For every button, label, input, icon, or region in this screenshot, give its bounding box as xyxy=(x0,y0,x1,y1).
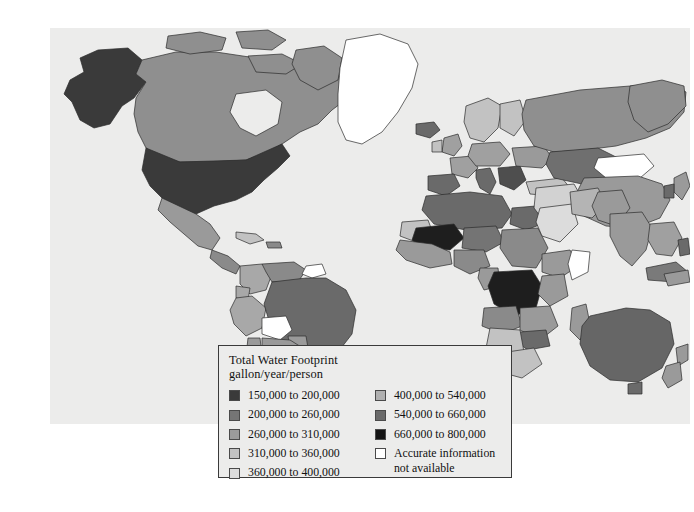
country-australia xyxy=(580,308,674,382)
legend-item: 200,000 to 260,000 xyxy=(229,407,375,426)
country-spain-portugal xyxy=(428,174,460,196)
legend-swatch xyxy=(229,410,240,421)
country-ireland xyxy=(432,140,442,152)
country-norway-sweden xyxy=(464,98,502,142)
country-india xyxy=(610,212,652,266)
country-japan xyxy=(674,172,690,200)
legend-title-line2: gallon/year/person xyxy=(229,367,511,381)
country-germany-poland xyxy=(468,142,510,166)
legend-item-label: 660,000 to 800,000 xyxy=(394,427,486,442)
legend-swatch xyxy=(375,410,386,421)
country-kenya-tanzania xyxy=(538,274,568,306)
legend-item-label: 310,000 to 360,000 xyxy=(248,446,340,461)
country-canada-arctic-1 xyxy=(166,32,226,54)
country-philippines xyxy=(678,238,690,256)
legend-swatch xyxy=(229,448,240,459)
legend-item-label: 150,000 to 200,000 xyxy=(248,388,340,403)
legend-item-label: Accurate information not available xyxy=(394,446,495,476)
country-iceland xyxy=(416,122,440,138)
legend-swatch xyxy=(375,429,386,440)
legend-swatch xyxy=(375,448,386,459)
country-finland xyxy=(500,100,526,136)
country-peru xyxy=(230,296,266,336)
legend-item-label: 360,000 to 400,000 xyxy=(248,465,340,480)
legend-item-label: 200,000 to 260,000 xyxy=(248,407,340,422)
map-legend: Total Water Footprint gallon/year/person… xyxy=(218,345,512,478)
legend-item: Accurate information not available xyxy=(375,446,511,476)
country-mongolia xyxy=(594,154,654,178)
country-united-kingdom xyxy=(442,134,462,156)
legend-swatch xyxy=(229,429,240,440)
legend-item: 400,000 to 540,000 xyxy=(375,388,511,407)
legend-swatch xyxy=(229,390,240,401)
country-cuba xyxy=(236,232,264,244)
legend-item: 150,000 to 200,000 xyxy=(229,388,375,407)
country-canada-arctic-2 xyxy=(236,30,286,50)
legend-item: 540,000 to 660,000 xyxy=(375,407,511,426)
country-central-america xyxy=(210,250,240,274)
legend-columns: 150,000 to 200,000 200,000 to 260,000 26… xyxy=(229,388,511,485)
legend-title-line1: Total Water Footprint xyxy=(229,353,511,367)
legend-item-label: 540,000 to 660,000 xyxy=(394,407,486,422)
country-alaska xyxy=(64,48,146,128)
legend-title: Total Water Footprint gallon/year/person xyxy=(229,353,511,382)
country-italy xyxy=(476,168,496,194)
country-korea xyxy=(664,184,674,198)
country-greenland xyxy=(338,34,418,144)
legend-column-left: 150,000 to 200,000 200,000 to 260,000 26… xyxy=(229,388,375,485)
country-tasmania xyxy=(628,382,642,394)
country-hispaniola xyxy=(266,242,282,248)
legend-item-label: 260,000 to 310,000 xyxy=(248,427,340,442)
legend-item: 260,000 to 310,000 xyxy=(229,427,375,446)
country-somalia xyxy=(568,250,590,280)
country-southeast-asia xyxy=(648,222,682,256)
country-guyanas xyxy=(302,264,326,278)
country-niger xyxy=(462,226,504,252)
legend-swatch xyxy=(229,468,240,479)
legend-item-label: 400,000 to 540,000 xyxy=(394,388,486,403)
legend-item: 360,000 to 400,000 xyxy=(229,465,375,484)
legend-swatch xyxy=(375,390,386,401)
legend-column-right: 400,000 to 540,000 540,000 to 660,000 66… xyxy=(375,388,511,485)
legend-item: 660,000 to 800,000 xyxy=(375,427,511,446)
country-balkans xyxy=(498,166,526,190)
legend-item: 310,000 to 360,000 xyxy=(229,446,375,465)
country-morocco-algeria-libya xyxy=(422,192,512,230)
country-new-zealand-south xyxy=(662,362,682,388)
